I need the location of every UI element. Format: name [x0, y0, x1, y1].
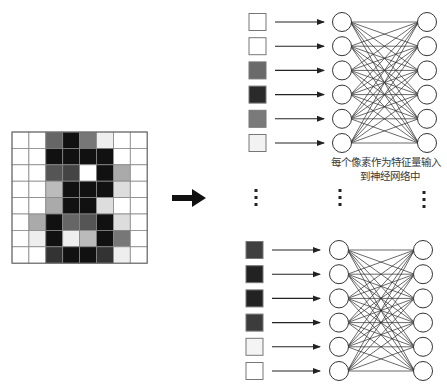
pixel-cell — [12, 247, 29, 263]
pixel-cell — [63, 214, 80, 230]
pixel-cell — [113, 247, 130, 263]
input-pixel — [249, 14, 266, 31]
pixel-cell — [97, 230, 114, 246]
input-neuron — [333, 61, 352, 80]
output-neuron — [414, 241, 433, 260]
input-pixel — [246, 363, 263, 380]
pixel-cell — [80, 181, 97, 197]
output-neuron — [414, 337, 433, 356]
output-neuron — [418, 13, 437, 32]
pixel-cell — [46, 230, 63, 246]
output-neuron — [418, 109, 437, 128]
output-neuron — [414, 362, 433, 381]
input-neuron — [333, 85, 352, 104]
ellipsis-inputs — [255, 189, 258, 206]
connections — [351, 22, 419, 143]
input-neuron — [330, 265, 349, 284]
pixel-cell — [29, 165, 46, 181]
pixel-cell — [97, 214, 114, 230]
pixel-cell — [97, 198, 114, 214]
output-neuron — [414, 265, 433, 284]
input-pixel — [246, 242, 263, 259]
pixel-cell — [130, 230, 147, 246]
pixel-cell — [46, 181, 63, 197]
pixel-cell — [130, 148, 147, 164]
pixel-cell — [130, 198, 147, 214]
input-neuron — [330, 313, 349, 332]
caption-line-1: 每个像素作为特征量输入 — [331, 156, 442, 168]
pixel-cell — [29, 198, 46, 214]
pixel-cell — [12, 198, 29, 214]
pixel-cell — [46, 165, 63, 181]
input-pixel — [249, 38, 266, 55]
pixel-cell — [63, 230, 80, 246]
pixel-cell — [80, 247, 97, 263]
pixel-cell — [29, 132, 46, 148]
pixel-cell — [80, 132, 97, 148]
pixel-cell — [113, 214, 130, 230]
input-pixel — [249, 135, 266, 152]
pixel-cell — [63, 181, 80, 197]
pixel-cell — [12, 181, 29, 197]
pixel-cell — [80, 214, 97, 230]
pixel-cell — [63, 148, 80, 164]
input-neuron — [330, 241, 349, 260]
output-neuron — [418, 85, 437, 104]
ellipsis-input-layer — [339, 189, 342, 206]
pixel-cell — [130, 214, 147, 230]
pixel-cell — [29, 247, 46, 263]
caption-line-2: 到神经网络中 — [360, 170, 420, 182]
input-neuron — [333, 109, 352, 128]
input-pixel — [249, 110, 266, 127]
pixel-cell — [63, 247, 80, 263]
pixel-cell — [130, 165, 147, 181]
ellipsis-output-layer — [423, 191, 426, 208]
pixel-cell — [12, 148, 29, 164]
pixel-cell — [46, 132, 63, 148]
pixel-cell — [12, 214, 29, 230]
pixel-cell — [29, 181, 46, 197]
pixel-cell — [46, 148, 63, 164]
pixel-cell — [80, 165, 97, 181]
input-neuron — [330, 289, 349, 308]
input-pixel — [246, 314, 263, 331]
pixel-cell — [80, 198, 97, 214]
pixel-to-neural-network-diagram: 每个像素作为特征量输入 到神经网络中 — [0, 0, 447, 391]
pixel-cell — [80, 230, 97, 246]
input-pixel — [246, 338, 263, 355]
pixel-cell — [130, 247, 147, 263]
output-neuron — [418, 61, 437, 80]
pixel-cell — [29, 148, 46, 164]
pixel-cell — [113, 198, 130, 214]
input-pixel — [249, 62, 266, 79]
pixel-cell — [113, 148, 130, 164]
pixel-cell — [12, 165, 29, 181]
pixel-cell — [130, 132, 147, 148]
pixel-cell — [46, 214, 63, 230]
pixel-cell — [63, 198, 80, 214]
pixel-cell — [12, 132, 29, 148]
output-neuron — [418, 37, 437, 56]
pixel-cell — [12, 230, 29, 246]
output-neuron — [418, 134, 437, 153]
input-neuron — [333, 37, 352, 56]
pixel-cell — [63, 132, 80, 148]
pixel-cell — [130, 181, 147, 197]
neural-network-bottom — [246, 241, 433, 381]
pixel-grid-image — [12, 132, 147, 263]
pixel-cell — [63, 165, 80, 181]
input-neuron — [330, 337, 349, 356]
pixel-cell — [113, 165, 130, 181]
caption: 每个像素作为特征量输入 到神经网络中 — [331, 156, 442, 182]
transform-arrow-icon — [172, 189, 206, 207]
pixel-cell — [29, 230, 46, 246]
output-neuron — [414, 313, 433, 332]
pixel-cell — [46, 198, 63, 214]
input-pixel — [246, 290, 263, 307]
pixel-cell — [113, 230, 130, 246]
pixel-cell — [113, 181, 130, 197]
pixel-cell — [97, 132, 114, 148]
input-pixel — [249, 86, 266, 103]
input-neuron — [333, 134, 352, 153]
pixel-cell — [46, 247, 63, 263]
